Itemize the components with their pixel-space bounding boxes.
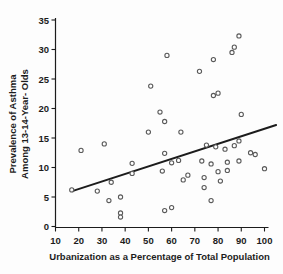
data-point [158, 110, 162, 114]
y-tick-label: 30 [38, 44, 49, 55]
data-point [118, 211, 122, 215]
data-point [239, 112, 243, 116]
x-tick-label: 20 [73, 235, 84, 246]
data-point [130, 161, 134, 165]
data-point [95, 189, 99, 193]
y-tick-label: 10 [38, 162, 49, 173]
data-point [216, 170, 220, 174]
asthma-urbanization-scatter-figure: Prevalence of Asthma Among 13-14-Year- O… [0, 0, 283, 274]
data-point [237, 139, 241, 143]
data-point [79, 148, 83, 152]
data-point [253, 152, 257, 156]
y-tick-label: 20 [38, 103, 49, 114]
x-tick-label: 70 [190, 235, 201, 246]
data-point [109, 180, 113, 184]
x-tick-label: 10 [50, 235, 61, 246]
x-tick-label: 30 [97, 235, 108, 246]
y-tick-label: 35 [38, 15, 49, 26]
data-point [262, 167, 266, 171]
data-point [232, 45, 236, 49]
x-tick-label: 90 [236, 235, 247, 246]
data-point [204, 143, 208, 147]
data-point [211, 57, 215, 61]
data-point [202, 185, 206, 189]
data-point [160, 169, 164, 173]
data-point [170, 206, 174, 210]
y-tick-label: 0 [44, 221, 49, 232]
data-point [232, 144, 236, 148]
data-point [179, 130, 183, 134]
y-tick-label: 5 [44, 192, 50, 203]
data-point [163, 208, 167, 212]
data-point [181, 178, 185, 182]
data-point [209, 198, 213, 202]
data-point [237, 159, 241, 163]
data-point [197, 69, 201, 73]
y-tick-label: 25 [38, 74, 49, 85]
data-point [214, 145, 218, 149]
x-axis-title: Urbanization as a Percentage of Total Po… [36, 251, 283, 262]
data-point [237, 34, 241, 38]
data-point [170, 161, 174, 165]
plot-area: 05101520253035102030405060708090100 [0, 0, 283, 274]
data-point [216, 91, 220, 95]
x-tick-label: 40 [120, 235, 131, 246]
data-point [130, 171, 134, 175]
data-point [70, 188, 74, 192]
data-point [230, 50, 234, 54]
data-point [186, 173, 190, 177]
data-point [218, 179, 222, 183]
data-point [163, 151, 167, 155]
data-point [107, 198, 111, 202]
data-point [165, 53, 169, 57]
x-tick-label: 80 [213, 235, 224, 246]
data-point [225, 168, 229, 172]
data-point [248, 151, 252, 155]
trend-line [72, 125, 276, 191]
data-point [209, 162, 213, 166]
data-point [202, 175, 206, 179]
data-point [146, 130, 150, 134]
data-point [176, 158, 180, 162]
axis-lines [56, 18, 269, 228]
x-tick-label: 100 [257, 235, 273, 246]
data-point [118, 195, 122, 199]
data-point [200, 159, 204, 163]
x-tick-label: 50 [143, 235, 154, 246]
data-point [118, 215, 122, 219]
data-point [163, 119, 167, 123]
data-point [149, 84, 153, 88]
data-point [102, 142, 106, 146]
y-tick-label: 15 [38, 133, 49, 144]
data-point [225, 160, 229, 164]
data-point [223, 147, 227, 151]
x-tick-label: 60 [166, 235, 177, 246]
data-point [211, 93, 215, 97]
